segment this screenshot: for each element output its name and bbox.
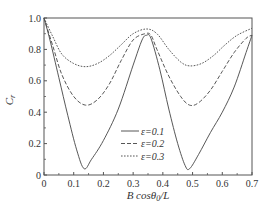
y-tick-label: 0.2: [29, 138, 42, 149]
x-tick-label: 0.7: [246, 178, 259, 189]
y-tick-label: 0.6: [29, 75, 42, 86]
legend-entry: ε=0.2: [141, 138, 164, 149]
y-tick-label: 0: [36, 170, 41, 181]
x-axis-label: B cosθ0/L: [127, 189, 170, 203]
x-tick-label: 0.1: [67, 178, 80, 189]
y-tick-label: 1.0: [29, 13, 42, 24]
x-tick-label: 0.6: [216, 178, 229, 189]
y-axis-label: Cr: [3, 94, 17, 105]
x-tick-label: 0.4: [157, 178, 170, 189]
x-tick-label: 0.5: [186, 178, 199, 189]
line-chart: 00.10.20.30.40.50.60.7 00.20.40.60.81.0 …: [0, 0, 270, 206]
y-tick-label: 0.4: [29, 107, 42, 118]
y-tick-label: 0.8: [29, 44, 42, 55]
x-tick-label: 0.2: [97, 178, 110, 189]
series-line: [44, 18, 252, 106]
x-tick-label: 0.3: [127, 178, 140, 189]
legend-entry: ε=0.3: [141, 151, 164, 162]
legend-entry: ε=0.1: [141, 126, 164, 137]
legend: ε=0.1ε=0.2ε=0.3: [121, 126, 164, 162]
x-tick-label: 0: [42, 178, 47, 189]
series-line: [44, 18, 252, 67]
